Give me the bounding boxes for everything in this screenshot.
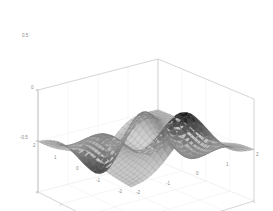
surface-plot-figure: 0.5 0 -0.5 2 1 0 -1 -2 -2 -1 0 1 2 xyxy=(0,0,273,211)
y-tick-label-3: 1 xyxy=(226,163,229,168)
y-tick-label-1: -1 xyxy=(166,182,170,187)
x-tick-label-0: 2 xyxy=(33,144,36,149)
z-tick-label-0: 0.5 xyxy=(22,34,28,39)
x-tick-label-3: -1 xyxy=(96,179,100,184)
z-tick-label-2: -0.5 xyxy=(20,136,28,141)
y-tick-label-4: 2 xyxy=(256,153,259,158)
z-tick-label-1: 0 xyxy=(31,86,34,91)
y-tick-label-0: -2 xyxy=(136,191,140,196)
surface-mesh xyxy=(38,110,254,187)
x-tick-label-1: 1 xyxy=(54,156,57,161)
x-tick-label-4: -2 xyxy=(118,190,122,195)
surface-plot-canvas xyxy=(0,0,273,211)
x-tick-label-2: 0 xyxy=(76,167,79,172)
y-tick-label-2: 0 xyxy=(196,172,199,177)
